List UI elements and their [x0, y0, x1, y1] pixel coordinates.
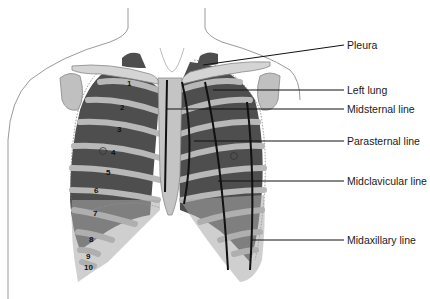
label-midclavicular-line: Midclavicular line	[347, 175, 427, 187]
label-left-lung: Left lung	[347, 84, 387, 96]
pleura-apex-right	[122, 53, 146, 68]
svg-text:3: 3	[117, 125, 122, 134]
label-midaxillary-line: Midaxillary line	[347, 234, 416, 246]
pleura-apex-left	[196, 52, 218, 68]
svg-text:1: 1	[127, 79, 132, 88]
svg-text:7: 7	[93, 209, 98, 218]
svg-text:6: 6	[94, 186, 99, 195]
svg-text:4: 4	[111, 148, 116, 157]
svg-text:9: 9	[86, 252, 91, 261]
label-pleura: Pleura	[347, 39, 377, 51]
svg-text:5: 5	[106, 168, 111, 177]
label-parasternal-line: Parasternal line	[347, 135, 420, 147]
svg-text:2: 2	[120, 103, 125, 112]
svg-text:10: 10	[84, 263, 93, 272]
sternum	[158, 78, 182, 215]
label-midsternal-line: Midsternal line	[347, 103, 415, 115]
svg-text:8: 8	[89, 235, 94, 244]
